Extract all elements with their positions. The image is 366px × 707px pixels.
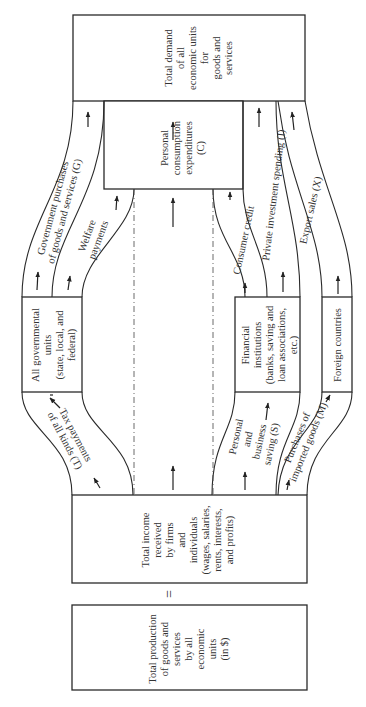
svg-text:etc.): etc.) [288,335,300,354]
imports-label: Purchases of imported goods (M) [276,396,330,484]
svg-text:of goods and: of goods and [159,621,170,676]
svg-text:expenditures: expenditures [183,121,194,175]
consumer-credit-label: Consumer credit [231,205,256,276]
tax-band-right [82,392,133,495]
svg-text:units: units [207,639,218,659]
foreign-label: Foreign countries [332,308,343,382]
svg-text:units: units [42,335,53,355]
taxes-label: Tax payments of all kinds (T) [45,404,96,472]
svg-text:(banks, saving and: (banks, saving and [264,305,276,384]
svg-text:and profits): and profits) [224,515,236,564]
svg-text:services: services [223,41,234,75]
svg-text:Export sales (X): Export sales (X) [297,175,324,245]
svg-text:=: = [162,590,177,598]
svg-text:Foreign countries: Foreign countries [332,308,343,382]
svg-text:Personal: Personal [159,130,170,166]
import-band-right [307,392,352,495]
svg-text:services: services [171,632,182,666]
svg-text:federal): federal) [66,328,78,361]
svg-text:Consumer credit: Consumer credit [231,205,256,276]
svg-text:institutions: institutions [252,322,263,369]
svg-text:individuals: individuals [188,517,199,564]
svg-text:Total demand: Total demand [163,29,174,87]
svg-text:by all: by all [183,637,194,661]
svg-text:Total income: Total income [140,512,151,567]
svg-text:(wages, salaries,: (wages, salaries, [200,505,212,574]
consumer-credit-band-right [243,101,267,297]
investment-label: Private investment spending (I) [260,128,288,261]
welfare-label: Welfare payments [75,215,110,261]
svg-text:rents, interests,: rents, interests, [212,508,223,571]
svg-text:(C): (C) [195,141,207,156]
equals-symbol: = [162,590,177,598]
svg-text:All governmental: All governmental [30,308,41,382]
svg-text:Private investment spending (I: Private investment spending (I) [260,128,288,261]
saving-label: Personal and business saving (S) [226,414,282,466]
svg-text:received: received [152,521,163,557]
svg-text:for: for [199,51,210,64]
svg-text:(in $): (in $) [219,637,231,661]
svg-text:loan associations,: loan associations, [276,308,287,382]
svg-text:economic: economic [195,628,206,669]
svg-text:Total production: Total production [147,613,158,683]
circular-flow-diagram: Total demand of all economic units for g… [0,0,366,707]
svg-text:and: and [176,532,187,548]
svg-text:goods and: goods and [211,36,222,80]
svg-text:(state, local, and: (state, local, and [54,310,66,380]
svg-text:by firms: by firms [164,522,175,557]
exports-label: Export sales (X) [297,175,324,245]
svg-text:of all: of all [175,47,186,69]
svg-text:economic units: economic units [187,26,198,90]
svg-text:consumption: consumption [171,120,182,175]
svg-text:Financial: Financial [240,325,251,364]
